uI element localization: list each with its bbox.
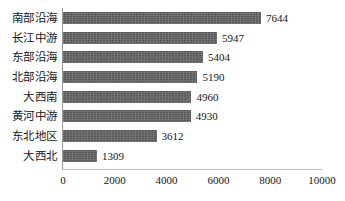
category-label: 大西北 — [0, 149, 57, 162]
x-tick-label: 2000 — [104, 174, 126, 186]
bar-fill — [63, 150, 97, 162]
category-label: 东部沿海 — [0, 51, 57, 64]
bar-value-label: 5947 — [222, 32, 244, 44]
bar-row: 北部沿海5190 — [0, 67, 345, 87]
bar-value-label: 3612 — [162, 130, 184, 142]
x-tick-label: 8000 — [259, 174, 281, 186]
bar-rows-container: 南部沿海7644长江中游5947东部沿海5404北部沿海5190大西南4960黄… — [0, 8, 345, 169]
x-tick-label: 4000 — [156, 174, 178, 186]
x-tick-label: 6000 — [207, 174, 229, 186]
bar-value-label: 1309 — [102, 150, 124, 162]
bar-row: 大西南4960 — [0, 87, 345, 107]
bar-row: 大西北1309 — [0, 146, 345, 166]
category-label: 北部沿海 — [0, 70, 57, 83]
bar — [63, 91, 191, 103]
bar-fill — [63, 130, 157, 142]
bar — [63, 32, 217, 44]
bar-value-label: 7644 — [266, 12, 288, 24]
category-label: 长江中游 — [0, 31, 57, 44]
bar-row: 南部沿海7644 — [0, 8, 345, 28]
x-axis-tick-labels: 0200040006000800010000 — [0, 170, 345, 190]
bar — [63, 150, 97, 162]
bar-fill — [63, 91, 191, 103]
bar — [63, 130, 157, 142]
bar-value-label: 5404 — [208, 51, 230, 63]
x-tick-label: 0 — [60, 174, 66, 186]
bar-value-label: 4960 — [196, 91, 218, 103]
category-label: 大西南 — [0, 90, 57, 103]
category-label: 东北地区 — [0, 130, 57, 143]
category-label: 南部沿海 — [0, 11, 57, 24]
bar-row: 东部沿海5404 — [0, 47, 345, 67]
bar — [63, 110, 191, 122]
bar — [63, 12, 261, 24]
x-tick-label: 10000 — [308, 174, 336, 186]
bar-fill — [63, 110, 191, 122]
bar-fill — [63, 71, 197, 83]
bar — [63, 51, 203, 63]
horizontal-bar-chart: 南部沿海7644长江中游5947东部沿海5404北部沿海5190大西南4960黄… — [0, 0, 345, 201]
bar-value-label: 4930 — [196, 110, 218, 122]
bar-fill — [63, 12, 261, 24]
bar-row: 长江中游5947 — [0, 28, 345, 48]
bar-fill — [63, 51, 203, 63]
bar-row: 黄河中游4930 — [0, 107, 345, 127]
category-label: 黄河中游 — [0, 110, 57, 123]
bar-value-label: 5190 — [202, 71, 224, 83]
bar-row: 东北地区3612 — [0, 126, 345, 146]
bar — [63, 71, 197, 83]
bar-fill — [63, 32, 217, 44]
